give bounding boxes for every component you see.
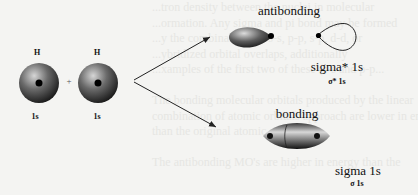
bonding-title: bonding [276, 106, 319, 122]
orbital-label-right: 1s [93, 112, 100, 121]
bonding-name: sigma 1s [335, 163, 381, 179]
bonding-orbital [263, 123, 330, 149]
hydrogen-atom-right [78, 63, 118, 103]
antibonding-name: sigma* 1s [311, 59, 363, 75]
arrow-to-bonding [134, 82, 216, 127]
antibonding-title: antibonding [258, 3, 320, 19]
arrow-to-antibonding [134, 37, 210, 80]
atom-label-left: H [34, 48, 40, 57]
atom-label-right: H [94, 48, 100, 57]
antibonding-lobe-outline [316, 23, 356, 50]
bonding-symbol: σ 1s [350, 179, 363, 188]
antibonding-lobe-filled [229, 27, 274, 47]
hydrogen-atom-left [19, 63, 59, 103]
plus-sign: + [66, 76, 71, 86]
orbital-label-left: 1s [31, 112, 38, 121]
antibonding-symbol: σ* 1s [328, 77, 345, 86]
